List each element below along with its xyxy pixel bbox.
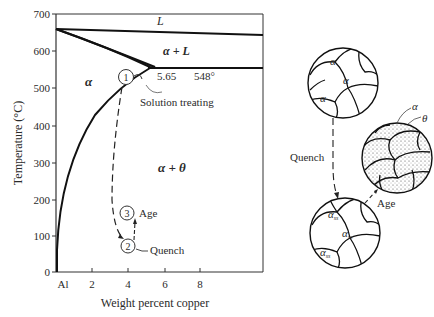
y-tick-200: 200 xyxy=(34,194,51,206)
microstructure-alpha-theta: α θ xyxy=(362,100,432,195)
step-2-marker: 2 xyxy=(121,239,135,253)
y-tick-400: 400 xyxy=(34,120,51,132)
micro-age-arrow xyxy=(365,191,376,203)
step-3-marker: 3 xyxy=(120,206,134,220)
phase-label-alpha-plus-theta: α + θ xyxy=(158,160,186,175)
micro-mid-theta-label: θ xyxy=(422,112,428,124)
y-tick-500: 500 xyxy=(34,82,51,94)
micro-top-alpha-1: α xyxy=(330,55,336,67)
phase-diagram-figure: 700 600 500 400 300 200 100 0 Al 2 4 6 8… xyxy=(0,0,434,317)
x-tick-2: 2 xyxy=(89,278,95,290)
phase-label-liquid: L xyxy=(156,14,164,28)
phase-label-alpha: α xyxy=(85,74,93,89)
y-tick-0: 0 xyxy=(45,266,51,278)
micro-quench-label: Quench xyxy=(290,151,325,163)
x-tick-6: 6 xyxy=(162,278,168,290)
age-arrowhead xyxy=(133,218,137,224)
eutectic-temperature: 548° xyxy=(194,70,215,82)
phase-boundaries xyxy=(56,29,263,272)
micro-top-alpha-3: α xyxy=(320,92,326,104)
y-tick-600: 600 xyxy=(34,45,51,57)
x-axis-label: Weight percent copper xyxy=(101,296,209,310)
quench-leader-line xyxy=(136,249,148,251)
micro-age-label: Age xyxy=(377,197,395,209)
microstructure-alpha-ss: αss αss αss xyxy=(310,198,382,270)
x-tick-4: 4 xyxy=(125,278,131,290)
x-tick-8: 8 xyxy=(197,278,203,290)
y-tick-100: 100 xyxy=(34,230,51,242)
micro-top-alpha-2: α xyxy=(343,74,349,86)
step-3-number: 3 xyxy=(125,208,130,219)
x-tick-al: Al xyxy=(58,278,69,290)
solution-treating-label: Solution treating xyxy=(140,96,214,108)
plot-frame xyxy=(56,14,263,272)
micro-mid-alpha-label: α xyxy=(412,100,418,112)
step-2-number: 2 xyxy=(126,241,131,252)
micro-bot-alpha-ss-3: αss xyxy=(320,246,331,259)
micro-quench-arrow xyxy=(333,118,337,195)
y-tick-300: 300 xyxy=(34,157,51,169)
microstructure-alpha: α α α xyxy=(308,47,380,120)
micro-bot-alpha-ss-2: αss xyxy=(342,227,353,240)
y-axis-label: Temperature (°C) xyxy=(11,101,25,185)
y-tick-labels: 700 600 500 400 300 200 100 0 xyxy=(34,8,51,278)
quench-label: Quench xyxy=(150,244,185,256)
micro-bot-alpha-ss-1: αss xyxy=(328,208,339,221)
phase-label-alpha-plus-liquid: α + L xyxy=(163,44,190,58)
y-tick-700: 700 xyxy=(34,8,51,20)
micro-age-arrowhead xyxy=(374,189,378,194)
x-tick-labels: Al 2 4 6 8 xyxy=(58,278,204,290)
step-1-number: 1 xyxy=(124,72,129,83)
age-path-dashed xyxy=(134,222,135,240)
eutectic-composition: 5.65 xyxy=(157,70,177,82)
age-label: Age xyxy=(139,207,157,219)
quench-arrowhead xyxy=(118,234,124,239)
